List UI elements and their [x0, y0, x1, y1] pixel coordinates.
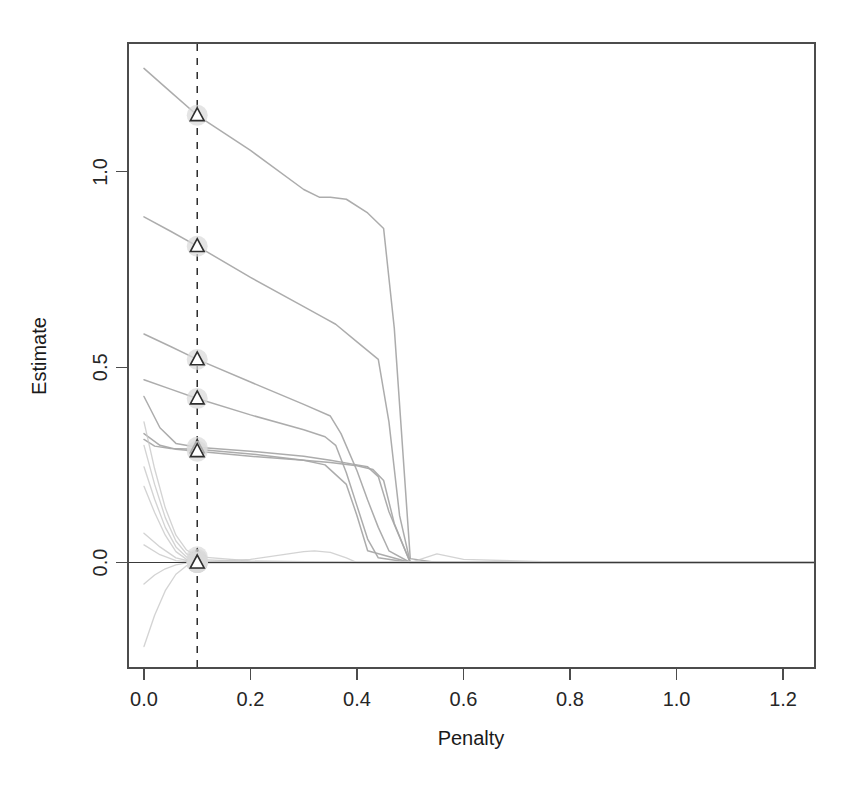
x-tick-label-4: 0.8	[556, 688, 584, 710]
x-axis-title: Penalty	[438, 727, 505, 749]
regularization-path-chart: 0.00.20.40.60.81.01.2 0.00.51.0 Penalty …	[0, 0, 851, 797]
x-tick-label-0: 0.0	[130, 688, 158, 710]
y-tick-label-2: 1.0	[89, 158, 111, 186]
x-tick-label-3: 0.6	[450, 688, 478, 710]
x-tick-label-5: 1.0	[663, 688, 691, 710]
x-tick-label-1: 0.2	[237, 688, 265, 710]
x-tick-label-2: 0.4	[343, 688, 371, 710]
figure-container: 0.00.20.40.60.81.01.2 0.00.51.0 Penalty …	[0, 0, 851, 797]
x-tick-label-6: 1.2	[769, 688, 797, 710]
y-tick-label-1: 0.5	[89, 353, 111, 381]
y-tick-label-0: 0.0	[89, 549, 111, 577]
y-axis-title: Estimate	[28, 317, 50, 395]
